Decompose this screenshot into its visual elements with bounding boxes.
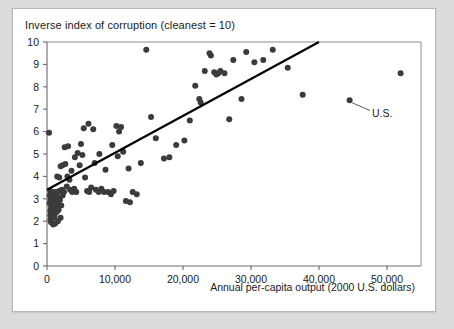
y-tick-label: 5 bbox=[33, 148, 39, 160]
y-tick-labels: 012345678910 bbox=[27, 36, 39, 272]
data-point bbox=[118, 124, 124, 130]
data-point bbox=[153, 135, 159, 141]
data-point bbox=[111, 188, 117, 194]
figure-root: Inverse index of corruption (cleanest = … bbox=[0, 0, 454, 329]
data-point bbox=[79, 152, 85, 158]
x-tick-label: 0 bbox=[44, 273, 50, 285]
data-point bbox=[270, 47, 276, 53]
data-point bbox=[138, 160, 144, 166]
data-point bbox=[96, 151, 102, 157]
data-point bbox=[166, 154, 172, 160]
data-point bbox=[115, 153, 121, 159]
data-point bbox=[208, 52, 214, 58]
data-point bbox=[82, 175, 88, 181]
data-point bbox=[65, 143, 71, 149]
data-point bbox=[126, 166, 132, 172]
data-point bbox=[285, 65, 291, 71]
data-point bbox=[230, 57, 236, 63]
data-points bbox=[46, 47, 404, 228]
data-point bbox=[226, 116, 232, 122]
annotation-leader-line bbox=[352, 103, 370, 111]
data-point bbox=[173, 142, 179, 148]
x-tick-label: 20,000 bbox=[167, 273, 199, 285]
data-point bbox=[187, 117, 193, 123]
data-point bbox=[300, 92, 306, 98]
data-point bbox=[202, 68, 208, 74]
data-point bbox=[192, 83, 198, 89]
annotation-label-us: U.S. bbox=[372, 107, 392, 119]
x-tick-label: 10,000 bbox=[99, 273, 131, 285]
data-point bbox=[77, 162, 83, 168]
y-tick-label: 4 bbox=[33, 170, 39, 182]
y-tick-label: 9 bbox=[33, 58, 39, 70]
annotations: U.S. bbox=[352, 103, 392, 119]
figure-card: Inverse index of corruption (cleanest = … bbox=[12, 8, 436, 312]
data-point bbox=[62, 161, 68, 167]
data-point bbox=[78, 141, 84, 147]
regression-trend-line bbox=[47, 42, 319, 190]
data-point bbox=[181, 138, 187, 144]
y-tick-label: 10 bbox=[27, 36, 39, 48]
data-point bbox=[85, 121, 91, 127]
data-point bbox=[127, 199, 133, 205]
data-point bbox=[46, 130, 52, 136]
data-point bbox=[109, 142, 115, 148]
data-point bbox=[251, 59, 257, 65]
y-tick-label: 8 bbox=[33, 81, 39, 93]
y-tick-label: 1 bbox=[33, 237, 39, 249]
x-axis-title: Annual per-capita output (2000 U.S. doll… bbox=[210, 281, 415, 293]
data-point bbox=[243, 49, 249, 55]
y-tick-label: 7 bbox=[33, 103, 39, 115]
scatter-plot-svg: 010,00020,00030,00040,00050,000 01234567… bbox=[13, 9, 437, 313]
data-point bbox=[347, 97, 353, 103]
data-point bbox=[90, 126, 96, 132]
data-point bbox=[73, 189, 79, 195]
data-point bbox=[58, 203, 64, 209]
data-point bbox=[238, 96, 244, 102]
data-point bbox=[81, 125, 87, 131]
data-point bbox=[58, 215, 64, 221]
plot-area: 010,00020,00030,00040,00050,000 01234567… bbox=[13, 9, 437, 313]
data-point bbox=[161, 155, 167, 161]
data-point bbox=[134, 191, 140, 197]
y-tick-label: 6 bbox=[33, 125, 39, 137]
data-point bbox=[68, 168, 74, 174]
data-point bbox=[143, 47, 149, 53]
y-tick-label: 0 bbox=[33, 260, 39, 272]
data-point bbox=[148, 114, 154, 120]
data-point bbox=[56, 175, 62, 181]
data-point bbox=[398, 70, 404, 76]
data-point bbox=[102, 167, 108, 173]
y-tick-label: 2 bbox=[33, 215, 39, 227]
data-point bbox=[260, 57, 266, 63]
y-tick-label: 3 bbox=[33, 193, 39, 205]
plot-frame bbox=[47, 42, 421, 266]
trend-line bbox=[47, 42, 319, 190]
data-point bbox=[221, 70, 227, 76]
